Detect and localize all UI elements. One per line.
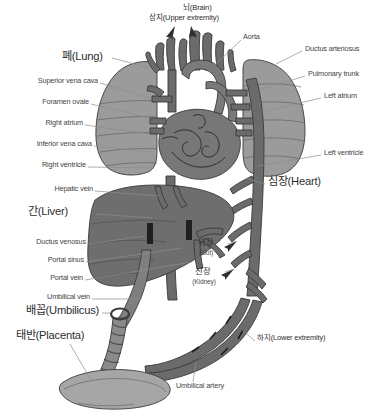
- label-left-atrium: Left atrium: [324, 92, 357, 100]
- label-foramen-ovale: Foramen ovale: [0, 98, 89, 106]
- label-kidney-korean: 신장: [188, 267, 218, 276]
- label-placenta: 태반(Placenta): [16, 329, 84, 342]
- placenta-shape: [59, 370, 170, 410]
- heart-shape: [147, 60, 254, 179]
- label-gut-english: (Gut): [189, 249, 223, 256]
- label-ductus-venosus: Ductus venosus: [0, 238, 86, 246]
- label-right-ventricle: Right ventricle: [0, 161, 86, 169]
- label-liver: 간(Liver): [28, 205, 68, 218]
- label-aorta: Aorta: [243, 33, 260, 41]
- label-umbilicus: 배꼽(Umbilicus): [26, 304, 99, 317]
- label-umbilical-vein: Umbilical vein: [0, 293, 90, 301]
- label-hepatic-vein: Hepatic vein: [0, 185, 93, 193]
- label-right-atrium: Right atrium: [0, 119, 83, 127]
- label-lower-extremity: 하지(Lower extremity): [257, 334, 325, 342]
- right-lung-shape: [96, 62, 157, 176]
- label-superior-vena-cava: Superior vena cava: [0, 77, 98, 85]
- label-portal-sinus: Portal sinus: [0, 256, 84, 264]
- label-portal-vein: Portal vein: [0, 274, 83, 282]
- label-brain: 뇌(Brain): [183, 4, 212, 13]
- label-ductus-arteriosus: Ductus arteriosus: [305, 45, 359, 53]
- label-lung: 폐(Lung): [62, 50, 103, 63]
- label-heart: 심장(Heart): [268, 175, 321, 188]
- label-umbilical-artery: Umbilical artery: [176, 382, 224, 390]
- label-pulmonary-trunk: Pulmonary trunk: [308, 70, 359, 78]
- fetal-circulation-figure: .out { stroke:#3a3a3a; stroke-width:0.9;…: [0, 0, 381, 417]
- umbilical-arteries: [145, 298, 262, 382]
- label-upper-extremity: 상지(Upper extremity): [149, 14, 219, 23]
- label-kidney-english: (Kidney): [183, 278, 225, 285]
- label-gut-korean: 위장: [191, 238, 221, 247]
- label-left-ventricle: Left ventricle: [324, 149, 363, 157]
- label-inferior-vena-cava: Inferior vena cava: [0, 140, 92, 148]
